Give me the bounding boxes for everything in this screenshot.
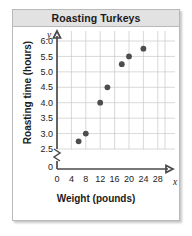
- x-variable-label: x: [172, 177, 178, 187]
- y-tick-label: 4.0: [40, 98, 53, 108]
- chart-title-bar: Roasting Turkeys: [13, 10, 179, 27]
- data-point: [119, 61, 125, 67]
- data-point: [97, 100, 103, 106]
- x-tick-label: 4: [69, 174, 74, 184]
- data-point: [126, 54, 132, 60]
- y-tick-label: 5.5: [40, 52, 53, 62]
- data-point: [76, 138, 82, 144]
- y-tick-label: 3.5: [40, 113, 53, 123]
- horizontal-gridlines: [57, 41, 175, 149]
- x-tick-labels: 0481216202428: [54, 174, 162, 184]
- x-tick-label: 12: [95, 174, 105, 184]
- plot-area: Roasting time (hours) 02.53.03.54.04.55.…: [13, 27, 179, 221]
- scatter-plot-svg: 02.53.03.54.04.55.05.56.0 0481216202428 …: [13, 27, 181, 197]
- x-tick-label: 8: [83, 174, 88, 184]
- x-tick-label: 24: [138, 174, 148, 184]
- data-points-group: [76, 46, 147, 144]
- y-tick-label: 5.0: [40, 67, 53, 77]
- x-axis: [57, 166, 173, 173]
- y-tick-label: 3.0: [40, 129, 53, 139]
- y-tick-label: 4.5: [40, 82, 53, 92]
- x-tick-label: 20: [124, 174, 134, 184]
- y-tick-labels: 02.53.03.54.04.55.05.56.0: [40, 36, 53, 172]
- chart-title: Roasting Turkeys: [52, 12, 141, 24]
- x-tick-label: 16: [110, 174, 120, 184]
- y-tick-label: 2.5: [40, 144, 53, 154]
- data-point: [141, 46, 147, 52]
- y-tick-label: 0: [48, 162, 53, 172]
- figure-card: Roasting Turkeys Roasting time (hours) 0…: [12, 9, 180, 221]
- x-tick-label: 28: [153, 174, 163, 184]
- data-point: [105, 84, 111, 90]
- x-axis-label: Weight (pounds): [13, 193, 179, 204]
- x-tick-label: 0: [54, 174, 59, 184]
- y-axis: [54, 31, 61, 169]
- data-point: [83, 131, 89, 137]
- y-variable-label: y: [46, 30, 52, 40]
